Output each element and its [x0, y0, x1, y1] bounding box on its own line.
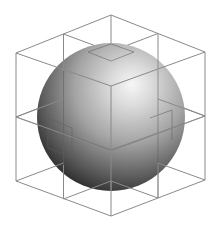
sphere-cube-illustration — [0, 0, 224, 232]
diagram-figure: Sphere inscribed in 2x2x2 cube lattice — [0, 0, 224, 232]
